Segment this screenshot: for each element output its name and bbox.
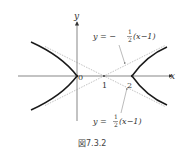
leader-line-upper (119, 45, 125, 64)
svg-text:y = −: y = − (92, 32, 116, 41)
tick-label-0: 0 (78, 73, 83, 82)
svg-text:(x−1): (x−1) (119, 117, 142, 126)
y-axis-label: y (73, 11, 80, 21)
svg-text:y =: y = (92, 117, 107, 126)
asymptote-lower-label: y = 1 2 (x−1) (92, 113, 142, 128)
svg-text:(x−1): (x−1) (133, 32, 156, 41)
svg-text:1: 1 (114, 113, 118, 120)
asymptote-upper (45, 47, 165, 107)
svg-text:1: 1 (128, 28, 132, 35)
figure-caption: 図7.3.2 (78, 139, 106, 148)
tick-label-2: 2 (127, 81, 132, 90)
tick-label-1: 1 (102, 81, 107, 90)
svg-text:2: 2 (114, 121, 118, 128)
hyperbola-figure: y x 0 1 2 y = − 1 2 (x−1) y = 1 2 (x−1) … (0, 0, 180, 158)
leader-line-lower (121, 88, 127, 113)
x-axis-label: x (170, 71, 175, 81)
asymptote-lower (45, 46, 165, 106)
svg-text:2: 2 (128, 36, 132, 43)
asymptote-upper-label: y = − 1 2 (x−1) (92, 28, 156, 43)
center-point-1 (103, 75, 105, 77)
vertex-point-2 (131, 75, 133, 77)
